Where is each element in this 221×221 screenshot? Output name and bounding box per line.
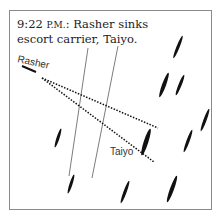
torpedo-track — [42, 78, 154, 162]
ship — [165, 175, 178, 203]
ship — [199, 108, 210, 132]
ship — [182, 129, 193, 153]
torpedo-track — [42, 78, 158, 128]
label-rasher: Rasher — [17, 53, 51, 71]
taiyo-carrier — [139, 128, 152, 156]
ship — [66, 174, 75, 194]
ship — [174, 74, 185, 96]
ship — [53, 128, 62, 148]
ship — [158, 72, 171, 98]
track-line — [92, 46, 118, 178]
ship — [172, 35, 184, 58]
track-line — [69, 48, 88, 176]
ship — [119, 180, 130, 204]
convoy-diagram: Rasher Taiyo — [0, 0, 221, 221]
label-taiyo: Taiyo — [110, 146, 134, 157]
